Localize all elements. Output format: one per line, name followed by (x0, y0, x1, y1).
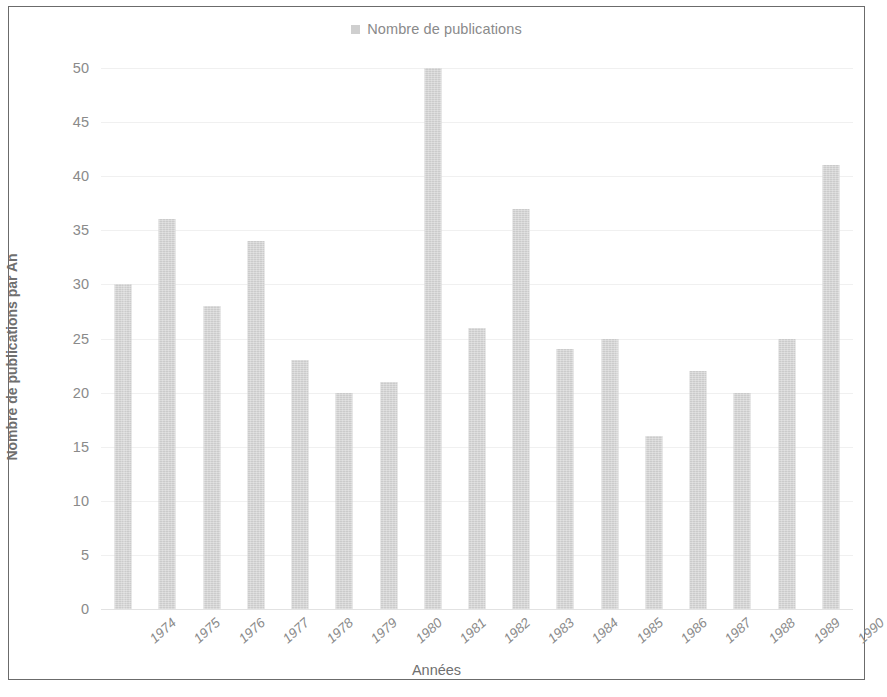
bar-slot (455, 68, 499, 609)
y-tick-label: 45 (73, 114, 89, 130)
plot-area: 50454035302520151050 (101, 68, 853, 609)
x-tick-label: 1985 (633, 615, 665, 646)
x-tick-label: 1982 (501, 615, 533, 646)
bar-slot (411, 68, 455, 609)
y-tick-label: 35 (73, 222, 89, 238)
bar-slot (366, 68, 410, 609)
x-tick-label: 1989 (810, 615, 842, 646)
bar-slot (278, 68, 322, 609)
chart-frame: Nombre de publications Nombre de publica… (8, 6, 865, 680)
y-tick-label: 10 (73, 493, 89, 509)
y-tick-label: 5 (81, 547, 89, 563)
bar[interactable] (557, 349, 574, 609)
x-tick-label: 1987 (722, 615, 754, 646)
bar[interactable] (247, 241, 264, 609)
x-tick-label: 1980 (412, 615, 444, 646)
bar-slot (101, 68, 145, 609)
bar-slot (809, 68, 853, 609)
bar[interactable] (468, 328, 485, 609)
x-tick-label: 1986 (678, 615, 710, 646)
bar[interactable] (690, 371, 707, 609)
bar[interactable] (601, 339, 618, 610)
x-tick-label: 1984 (589, 615, 621, 646)
bar[interactable] (822, 165, 839, 609)
bar[interactable] (380, 382, 397, 609)
bar-slot (632, 68, 676, 609)
bar[interactable] (778, 339, 795, 610)
x-tick-label: 1979 (368, 615, 400, 646)
bar[interactable] (424, 68, 441, 609)
y-tick-label: 20 (73, 385, 89, 401)
y-tick-label: 30 (73, 276, 89, 292)
bar-slot (189, 68, 233, 609)
bar-slot (322, 68, 366, 609)
x-tick-label: 1990 (855, 615, 887, 646)
x-tick-label: 1977 (280, 615, 312, 646)
bar-slot (543, 68, 587, 609)
bar[interactable] (292, 360, 309, 609)
x-tick-label: 1975 (191, 615, 223, 646)
bar[interactable] (159, 219, 176, 609)
y-tick-label: 15 (73, 439, 89, 455)
bar[interactable] (336, 393, 353, 609)
bar-slot (234, 68, 278, 609)
bar[interactable] (734, 393, 751, 609)
y-tick-label: 40 (73, 168, 89, 184)
x-tick-label: 1976 (235, 615, 267, 646)
y-tick-label: 25 (73, 331, 89, 347)
legend-label: Nombre de publications (367, 21, 522, 37)
bar-slot (145, 68, 189, 609)
bar-slot (499, 68, 543, 609)
x-tick-label: 1981 (456, 615, 488, 646)
y-axis-title: Nombre de publications par An (4, 207, 20, 507)
bar-slot (720, 68, 764, 609)
bar[interactable] (203, 306, 220, 609)
bar[interactable] (513, 209, 530, 609)
y-tick-label: 0 (81, 601, 89, 617)
bar-slot (676, 68, 720, 609)
x-tick-label: 1974 (147, 615, 179, 646)
x-tick-label: 1978 (324, 615, 356, 646)
chart-legend: Nombre de publications (9, 21, 864, 37)
bar[interactable] (115, 284, 132, 609)
x-axis-title: Années (9, 662, 864, 678)
x-tick-label: 1983 (545, 615, 577, 646)
y-tick-label: 50 (73, 60, 89, 76)
bar[interactable] (645, 436, 662, 609)
x-tick-label: 1988 (766, 615, 798, 646)
bar-slot (765, 68, 809, 609)
bar-slot (588, 68, 632, 609)
bar-series (101, 68, 853, 609)
x-axis-ticks: 1974197519761977197819791980198119821983… (101, 609, 853, 669)
legend-swatch-icon (351, 25, 360, 34)
